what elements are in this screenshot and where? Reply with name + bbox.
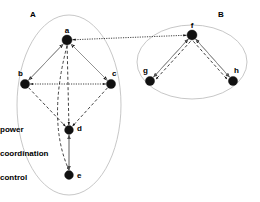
edge-control-f-g <box>156 41 191 79</box>
edge-control-a-e <box>58 46 69 170</box>
edge-coordination-a-f <box>73 35 187 40</box>
node-e[interactable]: e <box>65 171 82 180</box>
edge-control-a-d <box>67 46 69 125</box>
node-d[interactable]: d <box>65 124 82 134</box>
node-g[interactable]: g <box>143 66 154 86</box>
legend-label-coordination: coordination <box>0 149 49 158</box>
legend-item-power: power <box>0 125 24 134</box>
edge-control-f-h <box>193 41 227 79</box>
node-label-g: g <box>143 66 148 75</box>
node-label-f: f <box>191 21 194 30</box>
node-label-h: h <box>234 66 239 75</box>
node-dot-a[interactable] <box>62 35 72 45</box>
node-label-c: c <box>112 69 117 78</box>
edge-control-b-d <box>29 88 66 127</box>
cluster-label-B: B <box>218 10 224 19</box>
node-h[interactable]: h <box>228 66 239 86</box>
edge-power-a-c <box>71 44 107 80</box>
cluster-label-A: A <box>30 10 36 19</box>
legend-label-power: power <box>0 125 24 134</box>
node-dot-b[interactable] <box>20 79 29 88</box>
node-dot-f[interactable] <box>187 30 197 40</box>
node-dot-g[interactable] <box>145 76 154 85</box>
node-dot-d[interactable] <box>65 126 74 135</box>
clusters-layer: AB <box>17 10 247 195</box>
node-dot-h[interactable] <box>228 76 237 85</box>
diagram-canvas: AB abcdefgh powercoordinationcontrol <box>0 0 260 202</box>
node-a[interactable]: a <box>62 26 72 45</box>
node-label-a: a <box>65 26 70 35</box>
node-label-d: d <box>77 124 82 133</box>
legend-label-control: control <box>0 173 27 182</box>
node-f[interactable]: f <box>187 21 197 40</box>
edge-power-a-b <box>29 44 64 80</box>
node-dot-c[interactable] <box>106 79 115 88</box>
edges-layer <box>29 35 230 170</box>
legend-item-coordination: coordination <box>0 149 49 158</box>
graph-svg: AB abcdefgh powercoordinationcontrol <box>0 0 260 202</box>
node-label-e: e <box>77 171 82 180</box>
node-dot-e[interactable] <box>65 171 74 180</box>
edge-power-f-h <box>196 39 230 77</box>
edge-power-f-g <box>154 39 189 77</box>
legend-item-control: control <box>0 173 27 182</box>
nodes-layer: abcdefgh <box>18 21 239 180</box>
edge-control-c-d <box>72 88 107 126</box>
legend-layer: powercoordinationcontrol <box>0 125 49 182</box>
node-label-b: b <box>18 69 23 78</box>
node-c[interactable]: c <box>106 69 117 89</box>
node-b[interactable]: b <box>18 69 29 89</box>
